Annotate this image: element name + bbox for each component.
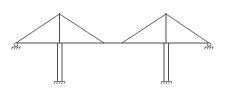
left-pin-support-icon [12,43,21,50]
bridge-diagram [0,0,225,99]
left-tower [16,13,104,84]
left-tower-main-stay [60,14,105,43]
right-pier-fixed-support-icon [161,82,172,85]
right-tower-back-stay [166,14,209,43]
right-pin-support-icon [205,43,214,50]
left-pier-fixed-support-icon [54,82,65,85]
left-tower-back-stay [16,14,60,43]
right-tower-main-stay [122,14,166,43]
right-tower [122,13,209,84]
